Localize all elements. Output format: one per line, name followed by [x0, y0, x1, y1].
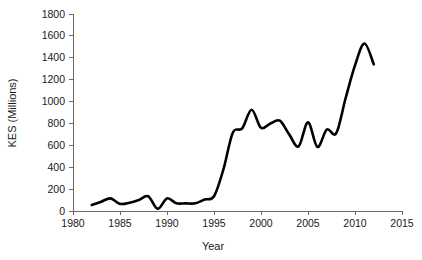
data-line-1: [92, 44, 374, 209]
y-tick-label: 1200: [42, 73, 66, 85]
y-tick-label: 1000: [42, 95, 66, 107]
x-tick-label: 2015: [390, 217, 414, 229]
chart-figure: 020040060080010001200140016001800 198019…: [0, 0, 422, 260]
y-axis: 020040060080010001200140016001800: [42, 8, 73, 217]
y-tick-label: 1600: [42, 29, 66, 41]
y-tick-label: 1400: [42, 51, 66, 63]
x-axis-title: Year: [202, 240, 225, 252]
data-series-group: [92, 44, 374, 209]
x-tick-label: 2010: [343, 217, 367, 229]
x-tick-label: 1985: [108, 217, 132, 229]
y-tick-label: 0: [59, 205, 65, 217]
x-tick-label: 2005: [296, 217, 320, 229]
y-axis-title: KES (Millions): [6, 78, 18, 147]
y-tick-label: 200: [47, 183, 65, 195]
x-tick-label: 1995: [202, 217, 226, 229]
x-tick-label: 1990: [155, 217, 179, 229]
y-tick-label: 800: [47, 117, 65, 129]
y-tick-label: 400: [47, 161, 65, 173]
y-tick-label: 600: [47, 139, 65, 151]
x-tick-label: 1980: [61, 217, 85, 229]
line-chart: 020040060080010001200140016001800 198019…: [0, 0, 422, 260]
x-axis: 19801985199019952000200520102015: [61, 211, 414, 229]
x-tick-label: 2000: [249, 217, 273, 229]
y-tick-label: 1800: [42, 8, 66, 20]
